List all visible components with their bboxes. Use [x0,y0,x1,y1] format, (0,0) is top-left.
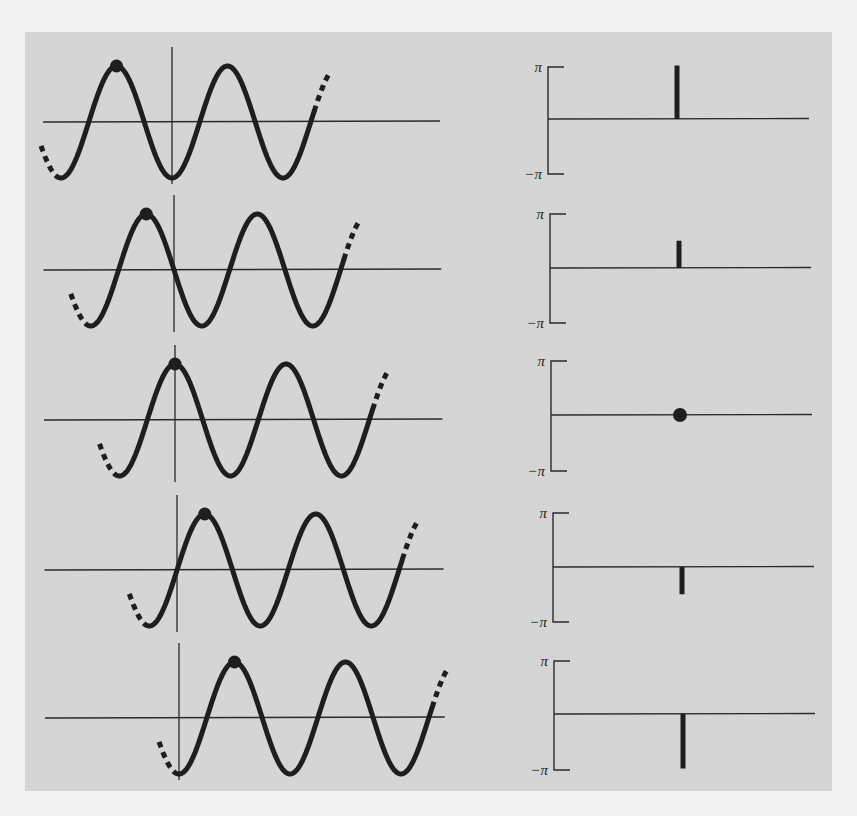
pi-bottom-label: −π [530,762,548,778]
pi-bottom-label: −π [524,166,542,182]
waveform-continuation-right [432,668,448,707]
phase-range-bracket [554,661,570,770]
time-axis [45,717,445,718]
waveform-continuation-left [71,294,91,326]
pi-bottom-label: −π [526,315,544,331]
pi-top-label: π [540,653,548,669]
peak-marker-dot [169,358,182,371]
phase-range-bracket [551,361,567,471]
phase-stick [675,66,680,119]
phase-plot-row-4: π−π [529,505,814,630]
peak-marker-dot [140,208,153,221]
time-axis [44,419,442,420]
phase-plot-row-2: π−π [526,206,811,331]
waveform-continuation-left [129,594,149,626]
time-axis [43,121,440,122]
row-5 [45,643,448,780]
peak-marker-dot [228,656,241,669]
pi-top-label: π [534,59,542,75]
time-axis [45,569,444,570]
waveform-continuation-left [159,742,179,774]
waveform-column [41,47,448,780]
pi-top-label: π [536,206,544,222]
phase-stick [677,241,682,268]
waveform-continuation-right [402,520,418,559]
pi-top-label: π [537,353,545,369]
waveform-continuation-right [314,72,330,111]
time-axis [44,269,442,270]
phase-plot-row-1: π−π [524,59,809,182]
phase-plot-row-3: π−π [527,353,812,479]
row-1 [41,47,440,184]
pi-bottom-label: −π [529,614,547,630]
peak-marker-dot [110,60,123,73]
phase-stick [681,714,686,768]
phase-zero-dot [673,408,687,422]
waveform-continuation-right [373,370,389,409]
frequency-axis [554,714,815,715]
pi-bottom-label: −π [527,463,545,479]
phase-range-bracket [548,67,564,174]
row-4 [45,495,444,632]
peak-marker-dot [198,508,211,521]
phase-plot-row-5: π−π [530,653,815,778]
row-2 [44,195,442,332]
waveform-continuation-left [100,444,120,476]
pi-top-label: π [539,505,547,521]
phase-stick [680,567,685,594]
row-3 [44,345,442,482]
waveform-continuation-right [344,220,360,259]
phase-spectrum-column: π−ππ−ππ−ππ−ππ−π [524,59,815,778]
waveform-continuation-left [41,146,61,178]
frequency-axis [553,567,814,568]
phase-shift-figure: π−ππ−ππ−ππ−ππ−π [0,0,857,816]
